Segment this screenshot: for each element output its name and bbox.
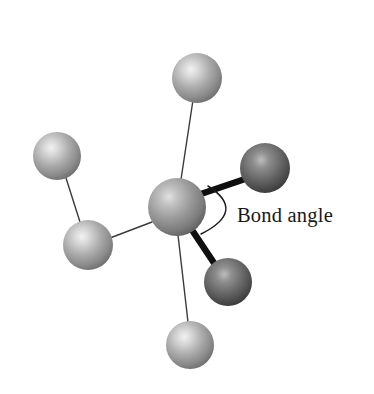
bond-lower-left <box>110 222 152 238</box>
atom-top <box>172 53 222 103</box>
atom-bottom <box>166 321 214 369</box>
atom-lower-left <box>63 220 113 270</box>
atom-right <box>240 143 290 193</box>
bond-angle-label: Bond angle <box>237 204 333 227</box>
central-atom <box>148 178 206 236</box>
bond-top <box>180 100 193 186</box>
atom-lower-right <box>204 258 252 306</box>
atom-left <box>33 132 81 180</box>
bond-left-pair <box>66 178 80 222</box>
molecule-canvas: Bond angle <box>0 0 374 394</box>
bond-angle-figure: Bond angle <box>0 0 374 394</box>
bond-bottom <box>178 235 188 322</box>
